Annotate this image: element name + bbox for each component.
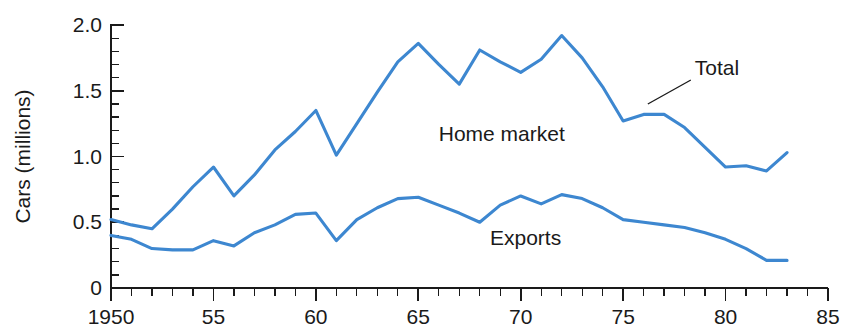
y-tick-label: 1.0 xyxy=(73,145,102,168)
x-tick-label: 1950 xyxy=(88,305,135,328)
y-tick-label: 1.5 xyxy=(73,79,102,102)
data-series-group xyxy=(111,36,787,261)
series-line-exports xyxy=(111,195,787,261)
line-chart: 00.51.01.52.0 195055606570758085 Cars (m… xyxy=(0,0,851,336)
x-tick-label: 85 xyxy=(816,305,839,328)
chart-container: 00.51.01.52.0 195055606570758085 Cars (m… xyxy=(0,0,851,336)
annotation-label: Home market xyxy=(439,122,565,145)
annotation-leader-line xyxy=(648,80,691,104)
x-tick-label: 80 xyxy=(714,305,737,328)
x-tick-label: 55 xyxy=(202,305,225,328)
x-tick-label: 60 xyxy=(304,305,327,328)
x-tick-label: 75 xyxy=(611,305,634,328)
annotation-label: Total xyxy=(695,56,739,79)
y-tick-label: 0.5 xyxy=(73,210,102,233)
x-axis-tick-labels: 195055606570758085 xyxy=(88,305,840,328)
x-axis-major-ticks xyxy=(111,288,828,301)
y-axis-tick-labels: 00.51.01.52.0 xyxy=(73,13,102,299)
x-tick-label: 70 xyxy=(509,305,532,328)
annotation-label: Exports xyxy=(490,226,561,249)
x-axis-minor-ticks xyxy=(131,288,807,296)
x-tick-label: 65 xyxy=(407,305,430,328)
y-axis-title: Cars (millions) xyxy=(11,89,34,223)
y-tick-label: 0 xyxy=(90,276,102,299)
y-tick-label: 2.0 xyxy=(73,13,102,36)
